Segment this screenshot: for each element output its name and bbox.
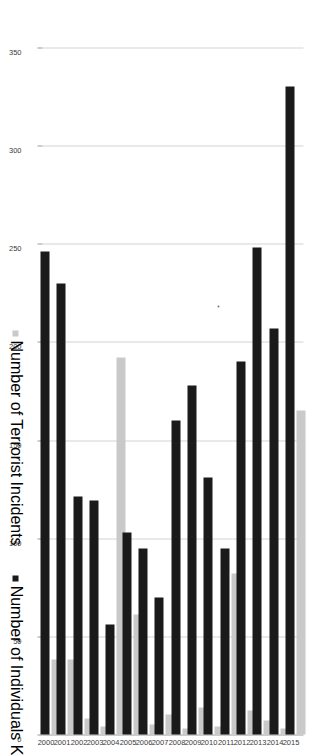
bar-chart: 3503002502001501005002000200120022003200…: [0, 0, 317, 756]
bar-group: 2013: [254, 47, 270, 734]
category-label-2012: 2012: [233, 737, 250, 746]
bar-killed[interactable]: [236, 361, 245, 734]
bar-killed[interactable]: [154, 597, 163, 734]
category-label-2013: 2013: [249, 737, 266, 746]
legend-label: Number of Individuals Killed in Terroris…: [6, 585, 24, 756]
bar-group: 2004: [107, 47, 123, 734]
category-label-2011: 2011: [217, 737, 233, 746]
category-label-2008: 2008: [168, 737, 185, 746]
bar-killed[interactable]: [220, 548, 229, 734]
bar-group: 2009: [189, 47, 205, 734]
bar-killed[interactable]: [73, 496, 82, 734]
bar-killed[interactable]: [56, 283, 65, 734]
legend-item[interactable]: Number of Terrorist Incidents: [6, 330, 24, 545]
category-label-2010: 2010: [200, 737, 217, 746]
category-label-2015: 2015: [282, 737, 299, 746]
bar-killed[interactable]: [138, 548, 147, 734]
plot-area: 3503002502001501005002000200120022003200…: [42, 47, 303, 734]
legend-label: Number of Terrorist Incidents: [6, 340, 24, 545]
bar-killed[interactable]: [285, 86, 294, 734]
category-label-2001: 2001: [54, 737, 71, 746]
category-label-2004: 2004: [103, 737, 120, 746]
legend-swatch-icon: [12, 575, 18, 581]
bar-group: 2012: [238, 47, 254, 734]
bar-group: 2011: [221, 47, 237, 734]
bar-incidents[interactable]: [296, 410, 305, 734]
bar-group: 2002: [75, 47, 91, 734]
legend-swatch-icon: [12, 330, 18, 336]
bar-group: 2007: [156, 47, 172, 734]
bar-killed[interactable]: [171, 420, 180, 734]
bar-killed[interactable]: [89, 500, 98, 734]
bar-killed[interactable]: [203, 477, 212, 734]
legend-item[interactable]: Number of Individuals Killed in Terroris…: [6, 575, 24, 756]
category-label-2006: 2006: [135, 737, 152, 746]
bar-killed[interactable]: [105, 624, 114, 734]
bar-group: 2010: [205, 47, 221, 734]
bar-group: 2008: [173, 47, 189, 734]
scan-artifact-speck: [217, 305, 219, 307]
bar-group: 2003: [91, 47, 107, 734]
bar-group: 2014: [270, 47, 286, 734]
legend: Number of Terrorist IncidentsNumber of I…: [0, 0, 42, 756]
category-label-2002: 2002: [70, 737, 87, 746]
category-label-2005: 2005: [119, 737, 136, 746]
bar-group: 2001: [58, 47, 74, 734]
bar-group: 2015: [287, 47, 303, 734]
category-label-2014: 2014: [266, 737, 283, 746]
bar-killed[interactable]: [122, 532, 131, 734]
bar-killed[interactable]: [269, 328, 278, 734]
category-label-2007: 2007: [152, 737, 169, 746]
bar-killed[interactable]: [187, 385, 196, 734]
bar-group: 2005: [124, 47, 140, 734]
rotated-figure-wrapper: 3503002502001501005002000200120022003200…: [0, 0, 317, 756]
bar-group: 2006: [140, 47, 156, 734]
category-label-2009: 2009: [184, 737, 201, 746]
category-label-2003: 2003: [86, 737, 103, 746]
bar-group: 2000: [42, 47, 58, 734]
bar-killed[interactable]: [252, 247, 261, 734]
